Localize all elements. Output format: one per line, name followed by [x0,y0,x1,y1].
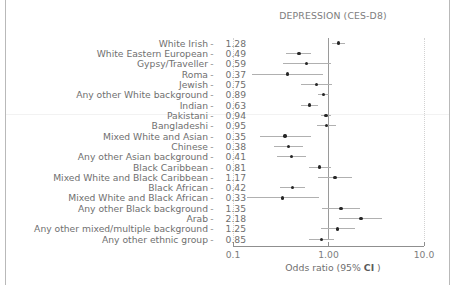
reference-line-1 [328,38,329,240]
point-estimate-marker [290,155,293,158]
gridline-10.0 [424,38,425,240]
x-axis-tick-label-0.1: 0.1 [213,249,253,260]
x-axis-tick-10.0 [424,242,425,246]
figure-page: DEPRESSION (CES-D8) 0.11.0010.0 White Ir… [0,0,456,285]
point-estimate-marker [291,186,294,189]
row-separator-dash: - [209,234,215,245]
point-estimate-marker [324,114,327,117]
x-axis-line [233,246,424,247]
point-estimate-marker [305,62,308,65]
point-estimate-marker [318,165,321,168]
x-axis-title-prefix: Odds ratio (95% [285,262,364,273]
point-estimate-marker [359,217,362,220]
point-estimate-marker [283,134,286,137]
point-estimate-marker [320,238,323,241]
point-estimate-marker [322,93,325,96]
x-axis-title: Odds ratio (95% CI ) [238,262,428,273]
point-estimate-marker [336,227,339,230]
x-axis-tick-1.00 [328,242,329,246]
row-odds-ratio-value: 0.85 [216,234,246,245]
point-estimate-marker [286,72,289,75]
point-estimate-marker [337,41,340,44]
x-axis-tick-label-1.00: 1.00 [309,249,349,260]
point-estimate-marker [297,52,300,55]
point-estimate-marker [281,196,284,199]
x-axis-title-ci: CI [364,262,374,273]
point-estimate-marker [287,145,290,148]
point-estimate-marker [339,207,342,210]
point-estimate-marker [315,83,318,86]
forest-plot-chart: DEPRESSION (CES-D8) 0.11.0010.0 White Ir… [0,0,456,285]
point-estimate-marker [333,176,336,179]
x-axis-tick-label-10.0: 10.0 [404,249,444,260]
point-estimate-marker [308,103,311,106]
x-axis-title-suffix: ) [374,262,381,273]
row-category-label: Any other ethnic group [0,234,208,245]
